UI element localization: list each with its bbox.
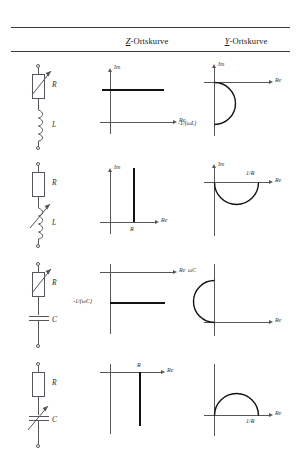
wire-segment (38, 420, 39, 445)
imaginary-axis-arrowhead (108, 168, 112, 172)
imaginary-axis (110, 264, 111, 334)
component-label-r: R (52, 378, 57, 387)
locus-curve (102, 89, 164, 91)
component-label-l: L (52, 218, 56, 227)
variable-arrow-icon (28, 202, 54, 228)
column-header-z: Z-Ortskurve (97, 33, 197, 48)
circuit-diagram-r-l-variable: R L (14, 160, 94, 259)
real-axis-arrowhead (161, 370, 165, 374)
locus-curve (110, 302, 165, 304)
locus-label: 1/R (246, 418, 254, 424)
locus-curve (196, 360, 298, 459)
locus-curve (139, 372, 141, 426)
real-axis (100, 122, 174, 123)
table-row: R L Im Re R Im (0, 160, 301, 259)
table-row: R L Im Re Im Re (0, 60, 301, 159)
component-label-r: R (52, 278, 57, 287)
real-axis (100, 222, 156, 223)
table-row: R C Re -1/(ωC) Re ωC (0, 260, 301, 359)
imaginary-axis (110, 72, 111, 134)
resistor-symbol (32, 172, 45, 197)
locus-label: 1/R (246, 170, 254, 176)
resistor-symbol (32, 372, 45, 397)
real-axis (100, 372, 162, 373)
column-header-y: Y-Ortskurve (196, 33, 296, 48)
real-axis-arrowhead (155, 220, 159, 224)
imaginary-axis (110, 364, 111, 434)
locus-curve (196, 260, 298, 359)
real-axis-arrowhead (173, 120, 177, 124)
table-rule-top (11, 27, 290, 28)
y-locus-plot: Im Re -1/(ωL) (196, 60, 298, 159)
capacitor-symbol (29, 314, 49, 323)
y-locus-plot: Re ωC (196, 260, 298, 359)
terminal-bottom (36, 146, 40, 150)
locus-curve (133, 168, 135, 222)
axis-label-re: Re (161, 217, 168, 223)
locus-label: ωC (188, 267, 196, 273)
column-header-z-text: -Ortskurve (131, 36, 169, 46)
y-locus-plot: Re 1/R (196, 360, 298, 459)
circuit-diagram-r-variable-c: R C (14, 260, 94, 359)
terminal-bottom (36, 344, 40, 348)
terminal-bottom (36, 444, 40, 448)
component-label-r: R (52, 80, 57, 89)
axis-label-re: Re (179, 267, 186, 273)
imaginary-axis-arrowhead (108, 68, 112, 72)
component-label-l: L (52, 120, 56, 129)
column-header-y-text: -Ortskurve (230, 36, 268, 46)
y-locus-plot: Im Re 1/R (196, 160, 298, 259)
z-locus-plot: Re -1/(ωC) (96, 260, 196, 359)
z-locus-plot: Im Re R (96, 160, 196, 259)
component-label-r: R (52, 178, 57, 187)
real-axis-arrowhead (173, 270, 177, 274)
wire-segment (38, 320, 39, 345)
variable-arrow-icon (26, 404, 52, 430)
component-label-c: C (52, 315, 57, 324)
component-label-c: C (52, 415, 57, 424)
locus-label: -1/(ωC) (73, 298, 92, 304)
axis-label-im: Im (114, 64, 121, 70)
table-row: R C Re R Re (0, 360, 301, 459)
z-locus-plot: Re R (96, 360, 196, 459)
real-axis (100, 272, 174, 273)
wire-segment (38, 99, 39, 110)
wire-segment (38, 297, 39, 315)
locus-label: -1/(ωL) (178, 120, 196, 126)
axis-label-im: Im (114, 164, 121, 170)
circuit-diagram-r-c-variable: R C (14, 360, 94, 459)
table-rule-bottom (11, 51, 290, 52)
locus-diagram-table: Z-Ortskurve Y-Ortskurve R L Im (0, 0, 301, 469)
terminal-bottom (36, 244, 40, 248)
inductor-symbol (33, 110, 45, 142)
axis-label-re: Re (167, 367, 174, 373)
imaginary-axis (110, 172, 111, 234)
z-locus-plot: Im Re (96, 60, 196, 159)
circuit-diagram-r-variable-l: R L (14, 60, 94, 159)
locus-curve (196, 60, 298, 159)
locus-label: R (130, 226, 134, 232)
locus-label: R (137, 362, 141, 368)
